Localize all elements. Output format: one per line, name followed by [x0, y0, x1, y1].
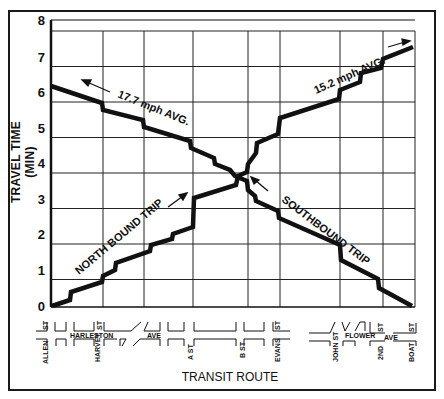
- street-st-evans: ST: [274, 320, 281, 330]
- x-axis-label: TRANSIT ROUTE: [150, 370, 310, 384]
- street-boat: BOAT: [408, 342, 415, 362]
- south-speed-arrow: [87, 82, 110, 92]
- street-flower: FLOWER: [345, 332, 375, 339]
- y-tick-3: 3: [38, 192, 45, 207]
- y-tick-4: 4: [38, 156, 46, 171]
- street-labels: HARLESTON AVE FLOWER AVE ALLEN HARVEY A …: [42, 320, 415, 364]
- y-tick-8: 8: [38, 13, 45, 28]
- northbound-arrowhead: [179, 193, 187, 200]
- street-evans: EVANS: [274, 338, 281, 362]
- y-axis-label: TRAVEL TIME (MIN): [9, 107, 37, 217]
- north-speed-label: 15.2 mph AVG.: [312, 54, 387, 96]
- y-tick-2: 2: [38, 227, 45, 242]
- north-speed-arrowhead: [402, 39, 410, 45]
- street-a-st: A ST: [187, 344, 194, 360]
- street-st-allen: ST: [42, 320, 49, 330]
- y-tick-0: 0: [38, 299, 45, 314]
- street-john: JOHN ST: [332, 331, 339, 362]
- south-speed-label: 17.7 mph AVG.: [116, 88, 191, 128]
- street-b-st: B ST: [239, 341, 246, 358]
- chart-svg: 8 7 6 5 4 3 2 1 0 17.7 mph AVG. 15.2 mph…: [0, 0, 444, 399]
- street-st-2nd: ST: [377, 322, 384, 332]
- y-tick-6: 6: [38, 85, 45, 100]
- south-speed-arrowhead: [82, 80, 91, 86]
- street-st-harvey: ST: [96, 320, 103, 330]
- y-tick-7: 7: [38, 50, 45, 65]
- y-tick-5: 5: [38, 121, 45, 136]
- street-harleston: HARLESTON: [70, 332, 113, 339]
- y-tick-labels: 8 7 6 5 4 3 2 1 0: [38, 13, 46, 314]
- street-ave-1: AVE: [147, 332, 161, 339]
- street-allen: ALLEN: [42, 341, 49, 364]
- y-tick-1: 1: [38, 263, 45, 278]
- street-2nd: 2ND: [377, 346, 384, 360]
- southbound-label: SOUTHBOUND TRIP: [280, 193, 373, 267]
- street-ave-2: AVE: [384, 334, 398, 341]
- street-st-boat: ST: [408, 322, 415, 332]
- street-harvey: HARVEY: [94, 333, 101, 362]
